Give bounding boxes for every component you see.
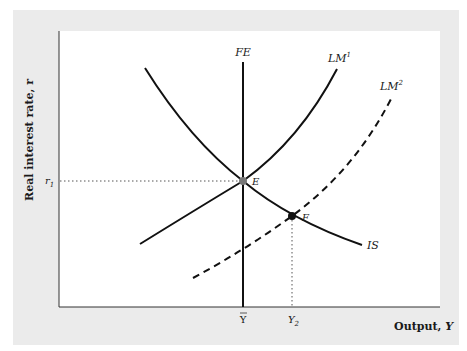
islm-chart: Real interest rate, r Output, Y FE LM1 L… [0,0,467,351]
lm2-curve [193,97,392,278]
fe-label: FE [234,46,251,59]
ybar-tick-label: Y [239,314,247,325]
f-label: F [301,212,310,223]
is-label: IS [366,239,379,252]
e-label: E [251,176,260,187]
point-e [239,177,247,185]
x-axis-label: Output, Y [394,320,454,333]
r1-tick-label: r1 [45,175,54,189]
lm2-label: LM2 [379,79,404,93]
lm1-label: LM1 [327,51,351,65]
is-curve [145,68,362,245]
point-f [288,212,296,220]
y2-tick-label: Y2 [288,314,300,328]
y-axis-label: Real interest rate, r [23,79,36,201]
